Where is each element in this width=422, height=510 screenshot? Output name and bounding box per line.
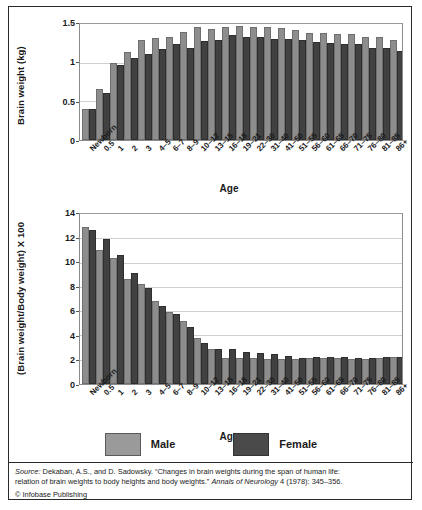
x-tick: 76–80: [360, 386, 372, 432]
bar-group: [82, 214, 96, 384]
bar-group: [194, 24, 208, 140]
bar-male: [110, 258, 117, 384]
x-tick: 2: [124, 386, 136, 432]
bar-female: [229, 35, 236, 140]
bar-female: [313, 42, 320, 140]
legend-label-female: Female: [279, 438, 317, 450]
bar-group: [208, 24, 222, 140]
bar-group: [348, 214, 362, 384]
source-journal: Annals of Neurology: [211, 477, 278, 486]
legend-swatch-male: [105, 433, 141, 456]
bar-female: [89, 109, 96, 140]
x-tick: 19–21: [235, 386, 247, 432]
bar-group: [166, 24, 180, 140]
x-tick: 2: [124, 142, 136, 188]
source-block: Source: Dekaban, A.S., and D. Sadowsky. …: [9, 462, 413, 499]
bar-male: [320, 33, 327, 140]
bar-group: [124, 214, 138, 384]
x-tick: 61–65: [318, 386, 330, 432]
bar-group: [110, 214, 124, 384]
bar-group: [334, 24, 348, 140]
x-tick: 41–50: [277, 142, 289, 188]
legend-item-female: Female: [233, 433, 317, 456]
bar-group: [334, 214, 348, 384]
bar-group: [376, 214, 390, 384]
bar-group: [320, 214, 334, 384]
y-tick-label: 0.5: [62, 97, 75, 107]
bar-male: [152, 301, 159, 384]
bar-male: [82, 109, 89, 140]
bar-female: [89, 230, 96, 384]
x-tick: 56–60: [304, 386, 316, 432]
bar-female: [173, 314, 180, 384]
chart2-plot-area: [79, 213, 403, 385]
bar-group: [152, 24, 166, 140]
x-tick: 71–75: [346, 386, 358, 432]
x-tick: 10–12: [193, 386, 205, 432]
bar-female: [159, 49, 166, 140]
bar-male: [180, 321, 187, 384]
bar-female: [397, 51, 403, 140]
copyright-notice: © Infobase Publishing: [15, 490, 407, 499]
x-tick: 71–75: [346, 142, 358, 188]
chart1-y-axis-label: Brain weight (kg): [15, 27, 26, 145]
bar-female: [369, 48, 376, 140]
y-tick-label: 12: [65, 233, 75, 243]
bar-group: [138, 24, 152, 140]
bar-group: [96, 214, 110, 384]
bar-group: [222, 24, 236, 140]
x-tick: 19–21: [235, 142, 247, 188]
x-tick: 6–7: [165, 386, 177, 432]
x-tick: 3: [138, 142, 150, 188]
bar-male: [348, 34, 355, 140]
bar-male: [278, 28, 285, 140]
bar-group: [278, 214, 292, 384]
source-line-2-b: 4 (1978): 345–356.: [278, 477, 343, 486]
x-tick: 1: [110, 142, 122, 188]
y-tick-label: 8: [70, 282, 75, 292]
chart1-y-ticks: 00.511.5: [55, 23, 79, 141]
x-tick: Newborn: [82, 142, 94, 188]
source-line-1: Source: Dekaban, A.S., and D. Sadowsky. …: [15, 467, 407, 477]
x-tick: 56–60: [304, 142, 316, 188]
bar-female: [271, 39, 278, 140]
x-tick: 22–30: [249, 386, 261, 432]
bar-male: [222, 27, 229, 140]
bar-group: [180, 214, 194, 384]
bar-female: [187, 48, 194, 140]
x-tick: 51–55: [291, 386, 303, 432]
bar-male: [194, 27, 201, 140]
x-tick: 66–70: [332, 142, 344, 188]
bar-male: [124, 52, 131, 140]
bar-male: [166, 312, 173, 384]
bar-female: [341, 44, 348, 140]
x-tick: 31–40: [263, 142, 275, 188]
bar-female: [285, 39, 292, 140]
chart1-x-ticks: Newborn0.51234–56–78–910–1213–1516–1819–…: [79, 142, 403, 188]
source-line-1-rest: Dekaban, A.S., and D. Sadowsky. “Changes…: [40, 467, 339, 476]
bar-male: [124, 279, 131, 384]
bar-female: [201, 41, 208, 140]
bar-female: [159, 306, 166, 384]
bar-female: [173, 44, 180, 140]
chart2-y-axis-label: (Brain weight/Body weight) X 100: [15, 213, 26, 383]
bar-female: [145, 54, 152, 140]
x-tick: 13–15: [207, 142, 219, 188]
x-tick: 16–18: [221, 142, 233, 188]
bar-female: [131, 273, 138, 384]
bar-group: [124, 24, 138, 140]
legend-label-male: Male: [151, 438, 175, 450]
x-tick: 81–85: [374, 386, 386, 432]
x-tick: 76–80: [360, 142, 372, 188]
bar-group: [166, 214, 180, 384]
bar-female: [117, 255, 124, 385]
chart2-y-ticks: 02468101214: [55, 213, 79, 385]
bar-group: [348, 24, 362, 140]
bar-group: [82, 24, 96, 140]
bar-female: [383, 48, 390, 140]
chart1-plot-area: [79, 23, 403, 141]
bar-group: [152, 214, 166, 384]
bar-female: [215, 40, 222, 140]
x-tick: 8–9: [179, 386, 191, 432]
source-line-2-a: relation of brain weights to body height…: [15, 477, 211, 486]
